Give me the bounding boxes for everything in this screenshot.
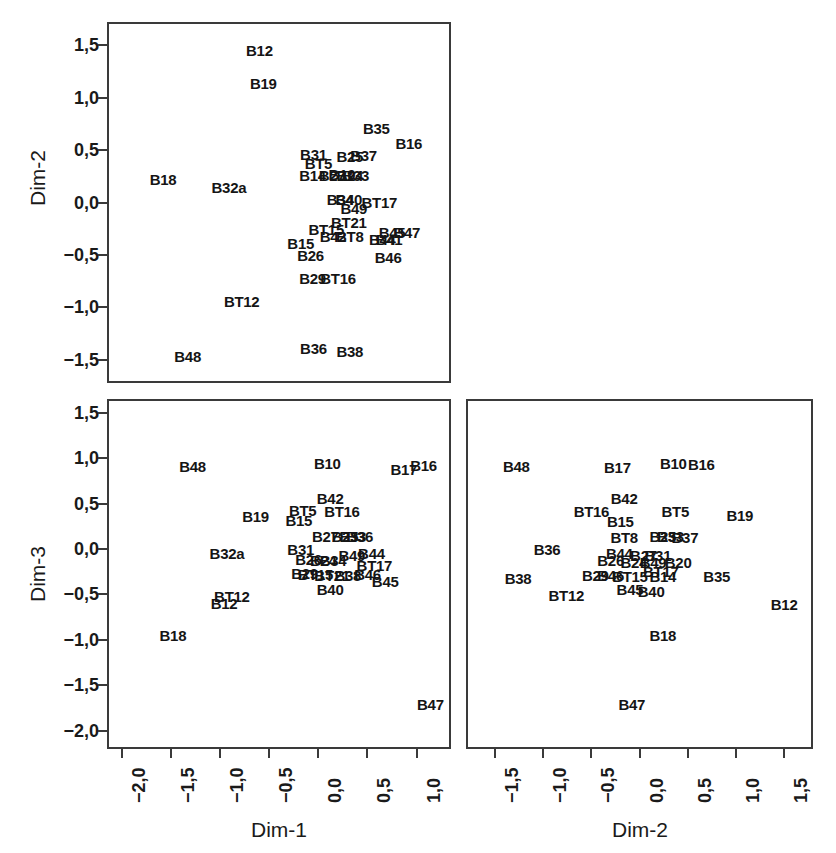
x-axis-tick-label: −0,5 xyxy=(277,767,295,803)
data-point-label: B46 xyxy=(375,249,402,264)
data-point-label: BT16 xyxy=(574,504,609,519)
x-axis-tick-mark xyxy=(687,749,689,758)
x-axis-tick-mark xyxy=(317,749,319,758)
data-point-label: B35 xyxy=(703,569,730,584)
data-point-label: B17 xyxy=(604,460,631,475)
y-axis-tick-mark xyxy=(98,202,107,204)
y-axis-tick-label: −1,5 xyxy=(63,676,99,694)
data-point-label: B32a xyxy=(210,545,245,560)
data-point-label: B40 xyxy=(638,584,665,599)
y-axis-tick-label: 0,5 xyxy=(74,141,99,159)
data-point-label: B32a xyxy=(212,179,247,194)
data-point-label: B16 xyxy=(395,135,422,150)
x-axis-tick-mark xyxy=(268,749,270,758)
x-axis-tick-label: 1,0 xyxy=(744,778,762,803)
data-point-label: B15 xyxy=(607,514,634,529)
x-axis-tick-label: −1,0 xyxy=(551,767,569,803)
y-axis-tick-mark xyxy=(98,97,107,99)
x-axis-tick-label: −1,5 xyxy=(503,767,521,803)
y-axis-tick-label: −2,0 xyxy=(63,722,99,740)
data-point-label: B16 xyxy=(688,456,715,471)
y-axis-tick-mark xyxy=(98,149,107,151)
data-point-label: B12 xyxy=(246,43,273,58)
y-axis-tick-mark xyxy=(98,44,107,46)
x-axis-tick-label: −1,5 xyxy=(179,767,197,803)
data-point-label: B38 xyxy=(336,344,363,359)
x-axis-tick-mark xyxy=(735,749,737,758)
x-axis-tick-mark xyxy=(416,749,418,758)
y-axis-tick-mark xyxy=(98,359,107,361)
data-point-label: B38 xyxy=(505,571,532,586)
y-axis-tick-mark xyxy=(98,548,107,550)
y-axis-tick-mark xyxy=(98,684,107,686)
y-axis-tick-label: −1,5 xyxy=(63,351,99,369)
data-point-label: B41 xyxy=(376,232,403,247)
data-point-label: B12 xyxy=(211,595,238,610)
x-axis-tick-label: −2,0 xyxy=(130,767,148,803)
data-point-label: B18 xyxy=(160,627,187,642)
x-axis-tick-label: 1,0 xyxy=(425,778,443,803)
data-point-label: B36 xyxy=(346,528,373,543)
data-point-label: B40 xyxy=(317,582,344,597)
y-axis-tick-mark xyxy=(98,254,107,256)
y-axis-tick-mark xyxy=(98,593,107,595)
y-axis-title-dim3: Dim-3 xyxy=(26,546,50,602)
data-point-label: B15 xyxy=(285,513,312,528)
y-axis-tick-mark xyxy=(98,503,107,505)
y-axis-tick-mark xyxy=(98,306,107,308)
y-axis-tick-label: −0,5 xyxy=(63,585,99,603)
x-axis-tick-mark xyxy=(219,749,221,758)
x-axis-tick-mark xyxy=(366,749,368,758)
data-point-label: B33 xyxy=(342,168,369,183)
y-axis-tick-label: 1,0 xyxy=(74,89,99,107)
x-axis-tick-mark xyxy=(170,749,172,758)
scatterplot-matrix-figure: B12B19B35B16B31B25B37BT5B14B27B10B24B33B… xyxy=(0,0,836,853)
x-axis-tick-mark xyxy=(494,749,496,758)
data-point-label: B47 xyxy=(619,696,646,711)
x-axis-tick-mark xyxy=(590,749,592,758)
data-point-label: B48 xyxy=(503,459,530,474)
data-point-label: B48 xyxy=(179,459,206,474)
data-point-label: B19 xyxy=(727,507,754,522)
data-point-label: B18 xyxy=(150,172,177,187)
data-point-label: B10 xyxy=(660,455,687,470)
data-point-label: BT8 xyxy=(610,530,637,545)
data-point-label: B19 xyxy=(242,509,269,524)
data-point-label: BT12 xyxy=(224,294,259,309)
x-axis-tick-label: 0,5 xyxy=(375,778,393,803)
y-axis-tick-label: 1,5 xyxy=(74,404,99,422)
x-axis-tick-mark xyxy=(639,749,641,758)
y-axis-tick-mark xyxy=(98,412,107,414)
x-axis-tick-mark xyxy=(121,749,123,758)
x-axis-tick-label: −0,5 xyxy=(599,767,617,803)
y-axis-tick-label: 1,5 xyxy=(74,36,99,54)
x-axis-tick-mark xyxy=(542,749,544,758)
y-axis-tick-label: 0,0 xyxy=(74,194,99,212)
x-axis-title-dim2: Dim-2 xyxy=(612,818,668,842)
y-axis-tick-label: −0,5 xyxy=(63,246,99,264)
x-axis-tick-label: 0,5 xyxy=(696,778,714,803)
y-axis-tick-mark xyxy=(98,457,107,459)
y-axis-tick-label: 0,5 xyxy=(74,495,99,513)
y-axis-title-dim2: Dim-2 xyxy=(26,150,50,206)
data-point-label: B48 xyxy=(174,348,201,363)
data-point-label: B35 xyxy=(363,120,390,135)
data-point-label: BT16 xyxy=(320,270,355,285)
data-point-label: BT8 xyxy=(336,228,363,243)
data-point-label: BT5 xyxy=(662,504,689,519)
y-axis-tick-label: −1,0 xyxy=(63,631,99,649)
x-axis-tick-label: 1,5 xyxy=(792,778,810,803)
panel-dim1-dim2: B12B19B35B16B31B25B37BT5B14B27B10B24B33B… xyxy=(107,22,451,383)
data-point-label: B19 xyxy=(250,75,277,90)
data-point-label: B47 xyxy=(417,696,444,711)
data-point-label: B16 xyxy=(410,457,437,472)
data-point-label: BT16 xyxy=(324,504,359,519)
data-point-label: B37 xyxy=(672,530,699,545)
y-axis-tick-label: 0,0 xyxy=(74,540,99,558)
y-axis-tick-label: 1,0 xyxy=(74,449,99,467)
y-axis-tick-label: −1,0 xyxy=(63,298,99,316)
x-axis-tick-label: 0,0 xyxy=(326,778,344,803)
panel-dim1-dim3: B48B10B17B16B42BT5BT16B19B15B27B25B33B36… xyxy=(107,399,451,749)
data-point-label: B26 xyxy=(297,247,324,262)
data-point-label: B12 xyxy=(771,596,798,611)
